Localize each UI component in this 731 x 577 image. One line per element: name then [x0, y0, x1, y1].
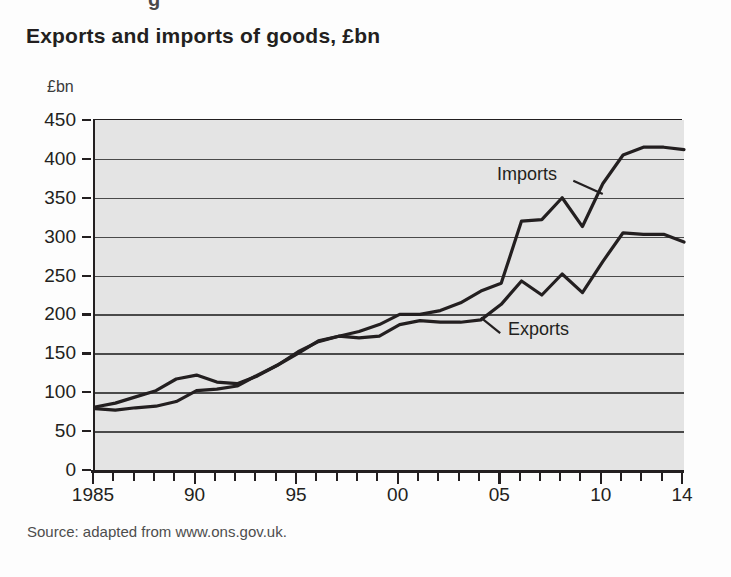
x-axis-tick: [112, 470, 114, 481]
y-axis-tick: [82, 430, 91, 432]
x-axis-tick-major: [295, 470, 297, 484]
exports-series-label: Exports: [508, 319, 569, 340]
gridline: [95, 237, 684, 239]
x-axis-tick: [559, 470, 561, 481]
chart-title: Exports and imports of goods, £bn: [26, 24, 380, 48]
y-axis-tick-label: 150: [0, 342, 76, 364]
y-axis-tick-label: 250: [0, 265, 76, 287]
gridline: [95, 198, 684, 200]
x-axis-tick-label: 10: [590, 484, 611, 506]
x-axis-tick: [458, 470, 460, 481]
y-axis-tick: [82, 236, 91, 238]
x-axis-tick: [620, 470, 622, 481]
exports-line: [95, 233, 684, 410]
x-axis-tick: [336, 470, 338, 481]
x-axis-tick: [315, 470, 317, 481]
series-lines: [95, 120, 684, 470]
imports-series-label: Imports: [497, 164, 557, 185]
figure-page: g Exports and imports of goods, £bn £bn …: [0, 0, 731, 577]
y-axis-tick-label: 400: [0, 148, 76, 170]
x-axis-tick-major: [681, 470, 683, 484]
x-axis-tick-label: 95: [286, 484, 307, 506]
y-axis-tick: [82, 313, 91, 315]
imports-leader-line: [573, 181, 602, 194]
y-axis-tick: [82, 119, 91, 121]
x-axis-line: [91, 470, 684, 473]
y-axis-tick-label: 100: [0, 381, 76, 403]
gridline: [95, 431, 684, 433]
y-axis-tick: [82, 352, 91, 354]
y-axis-tick: [82, 469, 91, 471]
y-axis-tick: [82, 391, 91, 393]
x-axis-tick-label: 90: [184, 484, 205, 506]
x-axis-tick-major: [397, 470, 399, 484]
gridline: [95, 392, 684, 394]
y-axis-tick: [82, 275, 91, 277]
x-axis-tick-major: [498, 470, 500, 484]
y-axis-tick: [82, 197, 91, 199]
x-axis-tick-label: 00: [387, 484, 408, 506]
x-axis-tick: [254, 470, 256, 481]
x-axis-tick: [356, 470, 358, 481]
x-axis-tick-major: [600, 470, 602, 484]
clipped-header-text: g: [148, 0, 161, 11]
gridline: [95, 159, 684, 161]
y-axis-tick-label: 0: [0, 459, 76, 481]
x-axis-tick: [661, 470, 663, 481]
x-axis-tick: [519, 470, 521, 481]
x-axis-tick: [579, 470, 581, 481]
gridline: [95, 314, 684, 316]
x-axis-tick-label: 14: [671, 484, 692, 506]
x-axis-tick: [539, 470, 541, 481]
y-axis-tick: [82, 158, 91, 160]
x-axis-tick: [417, 470, 419, 481]
y-axis-tick-label: 300: [0, 226, 76, 248]
x-axis-tick-major: [194, 470, 196, 484]
source-note: Source: adapted from www.ons.gov.uk.: [27, 523, 287, 540]
x-axis-tick-label: 05: [489, 484, 510, 506]
x-axis-tick-label: 1985: [72, 484, 114, 506]
x-axis-tick: [640, 470, 642, 481]
x-axis-tick: [275, 470, 277, 481]
x-axis-tick: [153, 470, 155, 481]
y-axis-tick-label: 450: [0, 109, 76, 131]
x-axis-tick: [133, 470, 135, 481]
x-axis-tick: [478, 470, 480, 481]
plot-area: [93, 120, 684, 470]
y-axis-caption: £bn: [47, 78, 74, 96]
y-axis-tick-label: 350: [0, 187, 76, 209]
gridline: [95, 353, 684, 355]
exports-leader-line: [481, 318, 500, 334]
x-axis-tick: [173, 470, 175, 481]
y-axis-tick-label: 50: [0, 420, 76, 442]
x-axis-tick-major: [92, 470, 94, 484]
y-axis-tick-label: 200: [0, 303, 76, 325]
x-axis-tick: [376, 470, 378, 481]
gridline: [95, 276, 684, 278]
x-axis-tick: [214, 470, 216, 481]
x-axis-tick: [234, 470, 236, 481]
x-axis-tick: [437, 470, 439, 481]
